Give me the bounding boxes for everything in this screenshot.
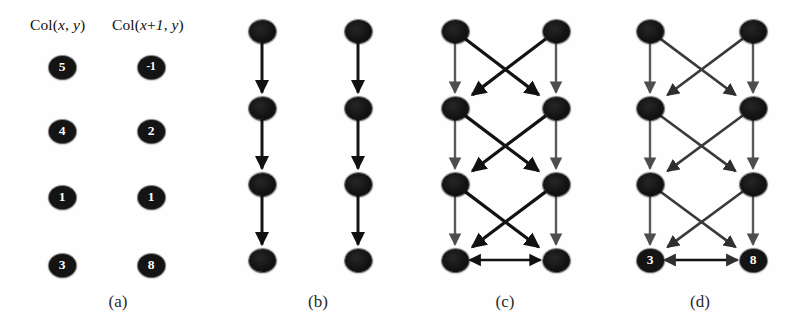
node-b-col-x-plus-1-r0[interactable] <box>345 20 372 43</box>
node-a-col-x-plus-1-r3[interactable]: 8 <box>138 254 165 277</box>
panel-label-c: (c) <box>496 292 515 312</box>
node-c-col-x-plus-1-r3[interactable] <box>543 249 570 272</box>
panel-label-b: (b) <box>308 292 328 312</box>
node-a-col-x-plus-1-r1[interactable]: 2 <box>138 120 165 143</box>
node-d-col-x-plus-1-r2[interactable] <box>740 173 767 196</box>
column-header-x: Col(x, y) <box>30 16 85 34</box>
node-c-col-x-r0[interactable] <box>442 20 469 43</box>
node-label: 1 <box>59 190 65 204</box>
node-d-col-x-plus-1-r0[interactable] <box>740 20 767 43</box>
node-label: 5 <box>59 60 65 74</box>
column-header-x-plus-1: Col(x+1, y) <box>112 16 184 34</box>
node-label: 3 <box>59 258 65 272</box>
node-c-col-x-r3[interactable] <box>442 249 469 272</box>
node-a-col-x-r3[interactable]: 3 <box>49 254 76 277</box>
node-label: 3 <box>647 253 653 267</box>
node-d-col-x-plus-1-r3[interactable]: 8 <box>740 249 767 272</box>
panel-label-d: (d) <box>690 292 710 312</box>
node-d-col-x-r3[interactable]: 3 <box>637 249 664 272</box>
node-label: 1 <box>148 190 154 204</box>
node-d-col-x-r2[interactable] <box>637 173 664 196</box>
node-d-col-x-r1[interactable] <box>637 97 664 120</box>
node-b-col-x-r1[interactable] <box>249 97 276 120</box>
node-c-col-x-plus-1-r1[interactable] <box>543 97 570 120</box>
node-c-col-x-r1[interactable] <box>442 97 469 120</box>
node-a-col-x-plus-1-r0[interactable]: -1 <box>138 56 165 79</box>
node-c-col-x-plus-1-r2[interactable] <box>543 173 570 196</box>
node-a-col-x-r1[interactable]: 4 <box>49 120 76 143</box>
node-a-col-x-plus-1-r2[interactable]: 1 <box>138 186 165 209</box>
node-a-col-x-r2[interactable]: 1 <box>49 186 76 209</box>
node-a-col-x-r0[interactable]: 5 <box>49 56 76 79</box>
node-c-col-x-r2[interactable] <box>442 173 469 196</box>
node-b-col-x-r3[interactable] <box>249 249 276 272</box>
figure-canvas: Col(x, y)Col(x+1, y)5413-1218(a)(b)(c)38… <box>0 0 804 317</box>
panel-label-a: (a) <box>109 292 128 312</box>
node-label: 2 <box>148 124 154 138</box>
node-label: 4 <box>59 124 65 138</box>
node-c-col-x-plus-1-r0[interactable] <box>543 20 570 43</box>
node-label: 8 <box>750 253 756 267</box>
node-b-col-x-r0[interactable] <box>249 20 276 43</box>
node-d-col-x-plus-1-r1[interactable] <box>740 97 767 120</box>
node-b-col-x-plus-1-r1[interactable] <box>345 97 372 120</box>
node-label: 8 <box>148 258 154 272</box>
node-b-col-x-plus-1-r3[interactable] <box>345 249 372 272</box>
node-b-col-x-plus-1-r2[interactable] <box>345 173 372 196</box>
node-b-col-x-r2[interactable] <box>249 173 276 196</box>
node-d-col-x-r0[interactable] <box>637 20 664 43</box>
node-label: -1 <box>147 61 156 73</box>
node-layer: Col(x, y)Col(x+1, y)5413-1218(a)(b)(c)38… <box>0 0 804 317</box>
